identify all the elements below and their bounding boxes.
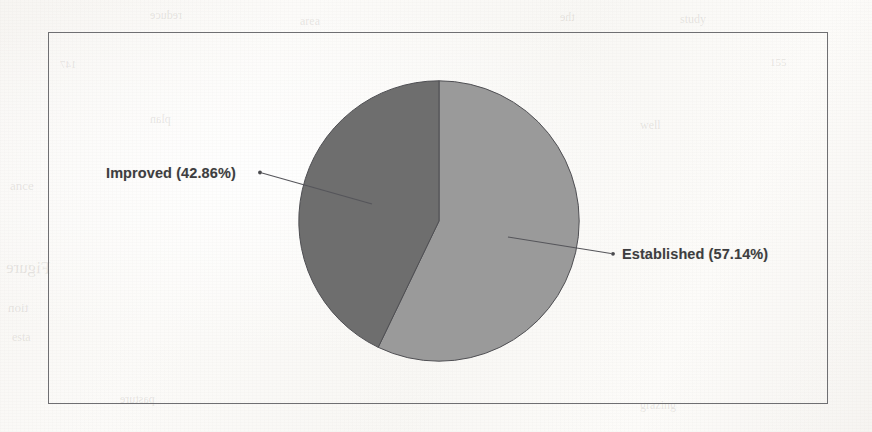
pie-label-established: Established (57.14%) xyxy=(622,246,768,262)
pie-label-improved: Improved (42.86%) xyxy=(106,165,236,181)
pie-chart xyxy=(298,80,580,362)
scanned-page: Figureancetionestareduceareathestudyplan… xyxy=(0,0,872,432)
pie-slice-group xyxy=(299,81,579,361)
pie-chart-svg xyxy=(298,80,580,362)
